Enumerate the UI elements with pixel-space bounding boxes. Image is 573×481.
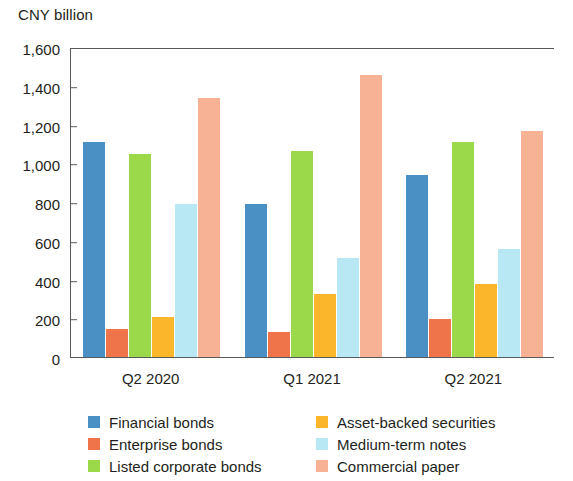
legend-column: Asset-backed securitiesMedium-term notes… <box>316 411 544 477</box>
legend-swatch-icon <box>316 460 328 472</box>
legend-label: Asset-backed securities <box>337 414 495 431</box>
y-axis-tick-mark <box>70 126 77 127</box>
bar <box>152 317 174 357</box>
y-axis-tick-label: 400 <box>35 273 71 290</box>
bar <box>175 204 197 357</box>
y-axis-tick-label: 600 <box>35 234 71 251</box>
bar <box>360 75 382 357</box>
bar <box>83 142 105 357</box>
legend-swatch-icon <box>316 438 328 450</box>
bar <box>245 204 267 357</box>
y-axis-tick-label: 0 <box>52 351 71 368</box>
y-axis-tick-mark <box>70 203 77 204</box>
chart-legend: Financial bondsEnterprise bondsListed co… <box>88 411 558 477</box>
y-axis-tick-label: 200 <box>35 312 71 329</box>
y-axis-title: CNY billion <box>18 6 93 23</box>
bar <box>452 142 474 357</box>
legend-swatch-icon <box>316 416 328 428</box>
x-axis-category-label: Q2 2021 <box>445 370 503 387</box>
legend-item[interactable]: Asset-backed securities <box>316 411 544 433</box>
legend-item[interactable]: Financial bonds <box>88 411 316 433</box>
legend-column: Financial bondsEnterprise bondsListed co… <box>88 411 316 477</box>
bar <box>475 284 497 357</box>
legend-label: Listed corporate bonds <box>109 458 262 475</box>
y-axis-tick-mark <box>70 164 77 165</box>
y-axis-tick-mark <box>70 319 77 320</box>
bar <box>268 332 290 357</box>
legend-item[interactable]: Medium-term notes <box>316 433 544 455</box>
y-axis-tick-label: 1,400 <box>22 79 71 96</box>
legend-item[interactable]: Commercial paper <box>316 455 544 477</box>
bar <box>291 151 313 357</box>
bar-group <box>245 49 382 357</box>
bar <box>429 319 451 357</box>
legend-swatch-icon <box>88 460 100 472</box>
bar-group <box>406 49 543 357</box>
bar <box>406 175 428 357</box>
bar <box>498 249 520 357</box>
bar <box>198 98 220 357</box>
y-axis-tick-label: 1,200 <box>22 118 71 135</box>
legend-swatch-icon <box>88 416 100 428</box>
legend-label: Enterprise bonds <box>109 436 222 453</box>
y-axis-tick-mark <box>70 281 77 282</box>
y-axis-tick-label: 1,000 <box>22 157 71 174</box>
x-axis-category-label: Q2 2020 <box>122 370 180 387</box>
legend-label: Financial bonds <box>109 414 214 431</box>
y-axis-tick-mark <box>70 87 77 88</box>
y-axis-tick-label: 800 <box>35 196 71 213</box>
legend-swatch-icon <box>88 438 100 450</box>
bar <box>337 258 359 357</box>
legend-item[interactable]: Enterprise bonds <box>88 433 316 455</box>
bar <box>521 131 543 357</box>
legend-label: Medium-term notes <box>337 436 466 453</box>
bar <box>106 329 128 357</box>
legend-label: Commercial paper <box>337 458 460 475</box>
bar-chart: CNY billion 1,6001,4001,2001,00080060040… <box>0 0 573 481</box>
legend-item[interactable]: Listed corporate bonds <box>88 455 316 477</box>
y-axis-tick-label: 1,600 <box>22 41 71 58</box>
plot-area: 1,6001,4001,2001,0008006004002000 <box>70 48 554 358</box>
y-axis-tick-mark <box>70 242 77 243</box>
plot-inner <box>71 49 554 357</box>
bar <box>129 154 151 357</box>
bar <box>314 294 336 357</box>
bar-group <box>83 49 220 357</box>
x-axis-category-label: Q1 2021 <box>283 370 341 387</box>
